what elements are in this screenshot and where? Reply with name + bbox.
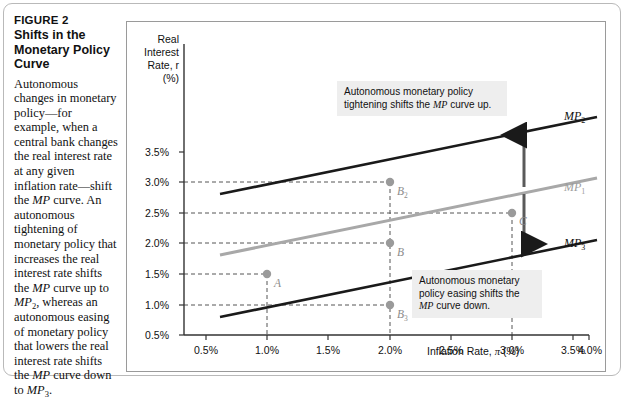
x-tick-label-1p5: 1.5% — [308, 344, 348, 356]
callout-easing: Autonomous monetary policy easing shifts… — [412, 270, 542, 318]
point-label-b2-text: B — [397, 185, 404, 197]
point-label-b2: B2 — [397, 185, 408, 200]
point-label-b2-sub: 2 — [404, 191, 408, 200]
point-label-b3: B3 — [397, 308, 408, 323]
curve-label-mp1-text: MP — [564, 180, 581, 194]
x-tick-label-2p0: 2.0% — [370, 344, 410, 356]
y-tick-label-1p0: 1.0% — [127, 299, 169, 311]
y-axis-ticks — [179, 152, 184, 335]
callout-tightening-line1: Autonomous monetary policy — [344, 86, 500, 99]
point-b2 — [386, 178, 394, 186]
point-label-b3-text: B — [397, 308, 404, 320]
curve-mp2 — [220, 117, 597, 194]
callout-tightening: Autonomous monetary policy tightening sh… — [337, 81, 507, 116]
x-axis-ticks — [206, 335, 589, 340]
curve-mp1 — [220, 178, 597, 255]
point-label-b3-sub: 3 — [404, 314, 408, 323]
callout-tightening-line2: tightening shifts the MP curve up. — [344, 99, 500, 112]
curve-label-mp3-text: MP — [564, 236, 581, 250]
point-c — [508, 209, 516, 217]
callout-easing-line1: Autonomous monetary — [419, 275, 535, 288]
x-tick-label-4p0: 4.0% — [570, 344, 610, 356]
callout-easing-mp: MP — [419, 300, 433, 311]
figure-frame: FIGURE 2 Shifts in the Monetary Policy C… — [3, 3, 621, 376]
curve-label-mp1-sub: 1 — [581, 187, 585, 196]
x-tick-label-2p5: 2.5% — [431, 344, 471, 356]
y-tick-label-3p5: 3.5% — [127, 146, 169, 158]
point-label-b: B — [397, 246, 404, 258]
y-tick-label-3p0: 3.0% — [127, 176, 169, 188]
figure-caption: Autonomous changes in monetary policy—fo… — [14, 77, 118, 398]
point-label-a: A — [274, 277, 281, 289]
callout-easing-line3: MP curve down. — [419, 300, 535, 313]
x-tick-label-1p0: 1.0% — [247, 344, 287, 356]
callout-tightening-mp: MP — [433, 99, 447, 110]
y-tick-label-0p5: 0.5% — [127, 329, 169, 341]
point-a — [263, 270, 271, 278]
figure-number: FIGURE 2 — [14, 14, 118, 26]
curve-label-mp2-sub: 2 — [581, 116, 585, 125]
curve-label-mp2-text: MP — [564, 109, 581, 123]
point-b — [386, 239, 394, 247]
plot-area — [127, 22, 607, 373]
callout-easing-line2: policy easing shifts the — [419, 288, 535, 301]
chart-panel: Real Interest Rate, r (%) Inflation Rate… — [126, 21, 606, 372]
curve-label-mp1: MP1 — [564, 180, 585, 196]
curve-label-mp3: MP3 — [564, 236, 585, 252]
figure-title: Shifts in the Monetary Policy Curve — [14, 28, 118, 72]
y-tick-label-2p5: 2.5% — [127, 207, 169, 219]
callout-easing-line3b: curve down. — [433, 300, 490, 311]
x-tick-label-0p5: 0.5% — [186, 344, 226, 356]
y-tick-label-2p0: 2.0% — [127, 237, 169, 249]
point-label-c: C — [519, 215, 527, 227]
curve-label-mp3-sub: 3 — [581, 243, 585, 252]
caption-column: FIGURE 2 Shifts in the Monetary Policy C… — [12, 14, 118, 370]
callout-tightening-line2a: tightening shifts the — [344, 99, 433, 110]
callout-tightening-line2b: curve up. — [447, 99, 491, 110]
y-tick-label-1p5: 1.5% — [127, 268, 169, 280]
x-tick-label-3p0: 3.0% — [492, 344, 532, 356]
curve-label-mp2: MP2 — [564, 109, 585, 125]
point-b3 — [386, 301, 394, 309]
